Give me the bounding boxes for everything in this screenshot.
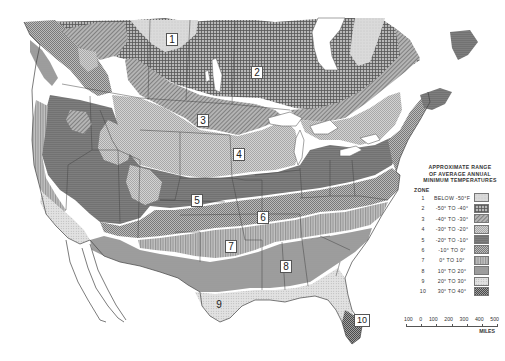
legend-zone-number: 7 [416, 257, 430, 263]
legend-zone-range: -40° TO -30° [430, 216, 474, 222]
legend-swatch-zone-7 [474, 256, 489, 265]
legend-title-line: APPROXIMATE RANGE [414, 164, 505, 171]
zone-label-2: 2 [251, 66, 263, 79]
zone-label-1: 1 [166, 33, 178, 46]
scale-tick [406, 324, 407, 327]
zone-label-10: 10 [354, 314, 370, 327]
scale-tick-label: 300 [460, 316, 469, 322]
legend-row-zone-7: 70° TO 10° [416, 255, 505, 265]
legend-rows: 1BELOW -50°F2-50° TO -40°3-40° TO -30°4-… [416, 193, 505, 297]
legend-row-zone-3: 3-40° TO -30° [416, 214, 505, 224]
scale-tick-label: 100 [429, 316, 438, 322]
scale-tick-label: 400 [475, 316, 484, 322]
scale-tick-label: 100 [404, 316, 413, 322]
scale-units: MILES [404, 328, 495, 334]
legend-zone-number: 4 [416, 226, 430, 232]
zone-label-8: 8 [280, 260, 292, 273]
legend-row-zone-8: 810° TO 20° [416, 266, 505, 276]
legend-zone-number: 6 [416, 247, 430, 253]
legend-zone-range: -50° TO -40° [430, 205, 474, 211]
zone-label-4: 4 [233, 148, 245, 161]
legend-row-zone-1: 1BELOW -50°F [416, 193, 505, 203]
legend-zone-number: 1 [416, 195, 430, 201]
scale-tick [452, 324, 453, 327]
legend-zone-range: -10° TO 0° [430, 247, 474, 253]
legend-title-line: OF AVERAGE ANNUAL [414, 171, 505, 178]
legend-zone-number: 5 [416, 237, 430, 243]
scale-tick-label: 200 [444, 316, 453, 322]
zone-label-9: 9 [214, 299, 224, 310]
legend-zone-range: -30° TO -20° [430, 226, 474, 232]
legend-swatch-zone-8 [474, 266, 489, 275]
zone-label-6: 6 [257, 211, 269, 224]
legend-row-zone-5: 5-20° TO -10° [416, 234, 505, 244]
scale-bar: 1000100200300400500 MILES [404, 316, 499, 334]
zone-5-newfoundland [450, 30, 478, 60]
scale-tick-label: 0 [419, 316, 422, 322]
legend-zone-number: 3 [416, 216, 430, 222]
legend-row-zone-4: 4-30° TO -20° [416, 224, 505, 234]
zone-5-maritimes [420, 88, 452, 110]
legend-zone-number: 10 [416, 288, 430, 294]
legend-swatch-zone-2 [474, 204, 489, 213]
legend-zone-range: -20° TO -10° [430, 237, 474, 243]
zone-label-3: 3 [197, 114, 209, 127]
scale-tick [421, 324, 422, 327]
legend-title-line: MINIMUM TEMPERATURES [414, 177, 505, 184]
legend-swatch-zone-9 [474, 277, 489, 286]
legend-swatch-zone-4 [474, 225, 489, 234]
scale-tick [497, 324, 498, 327]
legend-zone-number: 2 [416, 205, 430, 211]
legend-row-zone-6: 6-10° TO 0° [416, 245, 505, 255]
legend-zone-range: 0° TO 10° [430, 257, 474, 263]
scale-tick-labels: 1000100200300400500 [404, 316, 499, 322]
legend-title: APPROXIMATE RANGE OF AVERAGE ANNUAL MINI… [414, 164, 505, 184]
legend-swatch-zone-10 [474, 287, 489, 296]
legend-row-zone-9: 920° TO 30° [416, 276, 505, 286]
legend-zone-range: 30° TO 40° [430, 288, 474, 294]
scale-tick [482, 324, 483, 327]
scale-line [406, 323, 497, 327]
legend-zone-range: 10° TO 20° [430, 268, 474, 274]
scale-tick-label: 500 [490, 316, 499, 322]
scale-tick [436, 324, 437, 327]
legend-swatch-zone-6 [474, 245, 489, 254]
scale-tick [467, 324, 468, 327]
legend-swatch-zone-3 [474, 214, 489, 223]
gulf-st-lawrence [418, 58, 455, 84]
legend-zone-range: 20° TO 30° [430, 278, 474, 284]
legend: APPROXIMATE RANGE OF AVERAGE ANNUAL MINI… [416, 164, 505, 297]
legend-zone-number: 8 [416, 268, 430, 274]
legend-row-zone-2: 2-50° TO -40° [416, 203, 505, 213]
legend-zone-number: 9 [416, 278, 430, 284]
zone-label-7: 7 [225, 240, 237, 253]
legend-zone-range: BELOW -50°F [430, 195, 474, 201]
legend-swatch-zone-1 [474, 193, 489, 202]
legend-row-zone-10: 1030° TO 40° [416, 286, 505, 296]
legend-swatch-zone-5 [474, 235, 489, 244]
zone-label-5: 5 [191, 194, 203, 207]
